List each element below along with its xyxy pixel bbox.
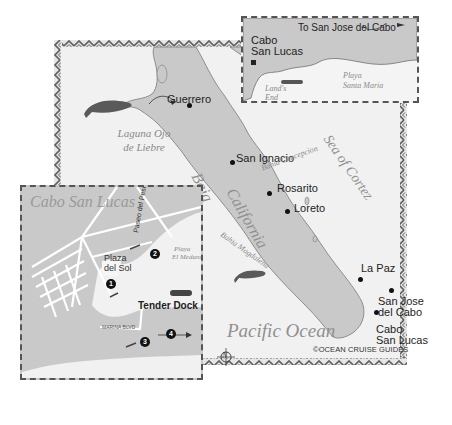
label-pacific-ocean: Pacific Ocean	[227, 320, 335, 342]
inset-label-playa-2: Santa Maria	[343, 81, 383, 90]
marker-1: 1	[106, 279, 116, 289]
marker-2: 2	[150, 249, 160, 259]
city-label-rosarito: Rosarito	[277, 182, 318, 194]
city-label-san-jose-2: del Cabo	[378, 306, 422, 318]
city-dot-san-ignacio	[230, 160, 235, 165]
inset-label-lands-end-2: End	[265, 93, 278, 102]
inset-town-title: Cabo San Lucas	[30, 193, 135, 211]
copyright-text: ©OCEAN CRUISE GUIDES	[313, 345, 408, 354]
inset-cabo-coast: Cabo San Lucas To San Jose del Cabo Play…	[241, 16, 419, 103]
city-dot-la-paz	[358, 277, 363, 282]
inset-label-playa-1: Playa	[343, 71, 362, 80]
inset-label-to-san-jose: To San Jose del Cabo	[298, 22, 396, 34]
label-laguna: Laguna Ojo de Liebre	[99, 126, 189, 154]
city-dot-san-jose	[389, 288, 394, 293]
inset-label-lands-end-1: Land's	[265, 84, 286, 93]
inset-label-plaza-2: del Sol	[104, 263, 132, 273]
street-marina: MARINA BLVD	[102, 324, 135, 330]
inset-label-cabo-2: San Lucas	[251, 45, 303, 57]
city-label-loreto: Loreto	[294, 202, 325, 214]
marker-4: 4	[166, 329, 176, 339]
inset-label-tender-dock: Tender Dock	[138, 300, 198, 311]
city-dot-rosarito	[267, 191, 272, 196]
city-dot-loreto	[285, 209, 290, 214]
city-label-la-paz: La Paz	[361, 262, 395, 274]
inset-cabo-town: Cabo San Lucas Plaza del Sol Playa El Me…	[20, 185, 203, 380]
city-label-guerrero: Guerrero	[167, 93, 211, 105]
inset-label-medano-2: El Medano	[172, 253, 203, 261]
inset-label-plaza-1: Plaza	[104, 253, 127, 263]
cruise-map: Guerrero San Ignacio Rosarito Loreto La …	[0, 0, 452, 425]
marker-3: 3	[140, 337, 150, 347]
inset-label-medano-1: Playa	[174, 245, 190, 253]
compass-icon: N	[217, 348, 235, 366]
